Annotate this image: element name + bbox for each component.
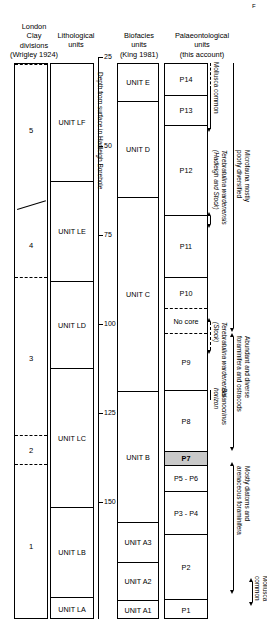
microfauna-arrowhead-down bbox=[230, 328, 234, 332]
annotation-terebratulina-stock: Terebratulina wardenensis (Stock) bbox=[213, 322, 228, 397]
biofacies-units-column: UNIT E UNIT D UNIT C UNIT B UNIT A3 UNIT… bbox=[117, 63, 159, 619]
mostly-diatoms-line bbox=[233, 466, 234, 590]
wrigley-boundary-oblique bbox=[17, 200, 46, 210]
wrigley-division-1: 1 bbox=[15, 542, 47, 551]
terebratulina-hadleigh-arrowhead-down bbox=[207, 224, 211, 228]
mollusca-common-top-dashed-line bbox=[210, 63, 211, 89]
depth-tick-75: 75 bbox=[104, 231, 112, 238]
mollusca-common-bottom-line bbox=[252, 582, 253, 602]
mollusca-common-top-arrowhead bbox=[207, 128, 211, 132]
biofacies-unit-a2: UNIT A2 bbox=[118, 563, 158, 601]
palaeo-unit-p8: P8 bbox=[165, 391, 207, 452]
annotation-abundant-diverse-foraminifera: Abundant and diverse foraminifera and os… bbox=[236, 336, 251, 412]
balanocrinus-pointer-line bbox=[210, 390, 211, 400]
palaeo-unit-p10: P10 bbox=[165, 278, 207, 308]
biofacies-unit-e: UNIT E bbox=[118, 64, 158, 102]
depth-tick-50: 50 bbox=[104, 142, 112, 149]
abundant-foram-arrowhead-down bbox=[230, 447, 234, 451]
lithological-unit-lf: UNIT LF bbox=[51, 64, 93, 182]
abundant-foram-line bbox=[233, 337, 234, 447]
annotation-balanocrinus-horizon: Balanocrinus horizon bbox=[213, 388, 228, 425]
lithological-unit-lb: UNIT LB bbox=[51, 508, 93, 598]
mollusca-common-bottom-arrowhead-down bbox=[249, 602, 253, 606]
wrigley-divisions-column: 5 4 3 2 1 bbox=[14, 63, 48, 619]
annotation-mostly-diatoms-arenaceous: Mostly diatoms and arenaceous foraminife… bbox=[236, 466, 251, 535]
wrigley-division-5: 5 bbox=[15, 126, 47, 135]
column-header-palaeontological: Palaeontological units (this account) bbox=[160, 31, 244, 59]
annotation-mollusca-common-bottom: Mollusca common bbox=[254, 576, 267, 601]
lithological-unit-lc: UNIT LC bbox=[51, 369, 93, 508]
wrigley-division-2: 2 bbox=[15, 446, 47, 455]
terebratulina-stock-line bbox=[210, 322, 211, 350]
palaeontological-units-column: P14 P13 P12 P11 P10 No core P9 P8 P7 P5 … bbox=[164, 63, 208, 619]
palaeo-unit-p11: P11 bbox=[165, 216, 207, 278]
lithological-unit-ld: UNIT LD bbox=[51, 282, 93, 369]
depth-tick-125: 125 bbox=[104, 409, 116, 416]
depth-tick-25: 25 bbox=[104, 53, 112, 60]
annotation-terebratulina-hadleigh-stock: Terebratulina wardenensis (Hadleigh and … bbox=[213, 150, 228, 225]
palaeo-unit-p2: P2 bbox=[165, 535, 207, 600]
mostly-diatoms-arrowhead-down bbox=[230, 590, 234, 594]
lithological-units-column: UNIT LF UNIT LE UNIT LD UNIT LC UNIT LB … bbox=[50, 63, 94, 619]
palaeo-unit-p7: P7 bbox=[165, 452, 207, 466]
palaeo-unit-p1: P1 bbox=[165, 600, 207, 620]
palaeo-unit-p5-p6: P5 - P6 bbox=[165, 466, 207, 492]
palaeo-unit-p3-p4: P3 - P4 bbox=[165, 492, 207, 535]
terebratulina-hadleigh-line bbox=[210, 216, 211, 224]
biofacies-unit-c: UNIT C bbox=[118, 198, 158, 392]
lithological-unit-le: UNIT LE bbox=[51, 182, 93, 282]
biofacies-unit-a1: UNIT A1 bbox=[118, 601, 158, 620]
annotation-mollusca-common-top: Mollusca common bbox=[213, 62, 220, 114]
microfauna-line bbox=[233, 63, 234, 328]
biofacies-unit-a3: UNIT A3 bbox=[118, 523, 158, 563]
palaeo-unit-p13: P13 bbox=[165, 96, 207, 126]
wrigley-division-4: 4 bbox=[15, 241, 47, 250]
depth-axis-title: Depth from surface in Hadleigh Borehole bbox=[96, 72, 104, 189]
wrigley-division-3: 3 bbox=[15, 354, 47, 363]
palaeo-unit-p9: P9 bbox=[165, 334, 207, 391]
depth-tick-100: 100 bbox=[104, 320, 116, 327]
stratigraphic-correlation-figure: F London Clay divisions (Wrigley 1924) L… bbox=[0, 0, 267, 632]
annotation-microfauna-poorly-diversified: Microfauna mostly poorly diversified bbox=[236, 150, 251, 202]
column-header-lithological: Lithological units bbox=[45, 31, 107, 50]
terebratulina-stock-arrowhead-down bbox=[207, 350, 211, 354]
figure-corner-mark: F bbox=[252, 3, 256, 9]
palaeo-unit-p14: P14 bbox=[165, 64, 207, 96]
palaeo-unit-p12: P12 bbox=[165, 126, 207, 216]
palaeo-unit-no-core: No core bbox=[165, 308, 207, 334]
lithological-unit-la: UNIT LA bbox=[51, 598, 93, 620]
biofacies-unit-d: UNIT D bbox=[118, 102, 158, 198]
depth-tick-150: 150 bbox=[104, 498, 116, 505]
mollusca-common-top-line bbox=[210, 89, 211, 129]
biofacies-unit-b: UNIT B bbox=[118, 392, 158, 523]
